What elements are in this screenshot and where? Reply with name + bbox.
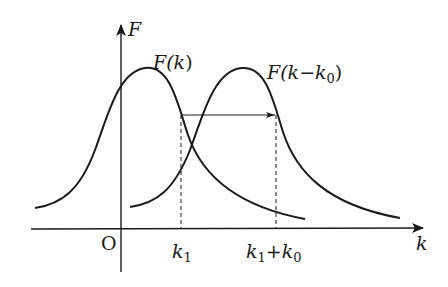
x-axis-label: k: [416, 232, 428, 254]
diagram-canvas: F F(k) F(k−k0) O k1 k1+k0 k: [0, 0, 448, 287]
label-f-k-minus-k0: F(k−k0): [266, 61, 342, 86]
tick-label-k1-plus-k0: k1+k0: [246, 240, 302, 265]
label-f-k: F(k): [152, 51, 193, 73]
curve-f-k-minus-k0: [130, 68, 400, 218]
x-axis: [31, 228, 423, 229]
y-axis-label: F: [127, 18, 142, 40]
curve-f-k: [35, 68, 305, 219]
tick-label-k1: k1: [172, 240, 192, 265]
origin-label: O: [101, 232, 117, 254]
